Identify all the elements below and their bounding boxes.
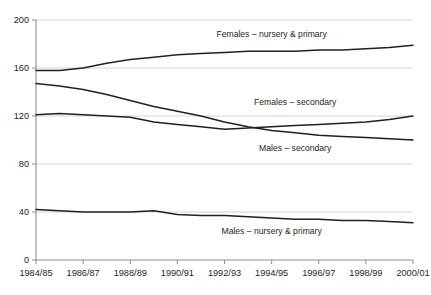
line-chart: 04080120160200 1984/851986/871988/891990… <box>0 0 431 295</box>
series-label: Males – secondary <box>259 143 332 153</box>
x-tick-label: 1994/95 <box>255 268 288 278</box>
x-tick-label: 2000/01 <box>396 268 429 278</box>
x-tick-label: 1998/99 <box>349 268 382 278</box>
x-tick-label: 1992/93 <box>208 268 241 278</box>
series-label: Females – nursery & primary <box>216 29 327 39</box>
x-tick-label: 1988/89 <box>114 268 147 278</box>
chart-background <box>0 0 431 295</box>
y-tick-label: 120 <box>14 111 29 121</box>
series-label: Males – nursery & primary <box>221 226 322 236</box>
x-tick-label: 1996/97 <box>302 268 335 278</box>
y-tick-label: 160 <box>14 63 29 73</box>
y-tick-label: 80 <box>19 159 29 169</box>
series-label: Females – secondary <box>254 97 337 107</box>
x-axis-tick-labels: 1984/851986/871988/891990/911992/931994/… <box>19 268 429 278</box>
y-tick-label: 40 <box>19 207 29 217</box>
chart-container: 04080120160200 1984/851986/871988/891990… <box>0 0 431 295</box>
y-tick-label: 0 <box>24 255 29 265</box>
x-tick-label: 1986/87 <box>67 268 100 278</box>
x-tick-label: 1990/91 <box>161 268 194 278</box>
y-tick-label: 200 <box>14 15 29 25</box>
x-tick-label: 1984/85 <box>19 268 52 278</box>
